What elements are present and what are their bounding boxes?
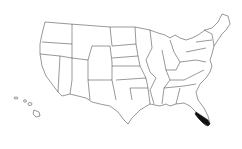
hawaii-islands [14, 97, 40, 117]
us-map-svg [0, 0, 242, 149]
us-map [0, 0, 242, 149]
